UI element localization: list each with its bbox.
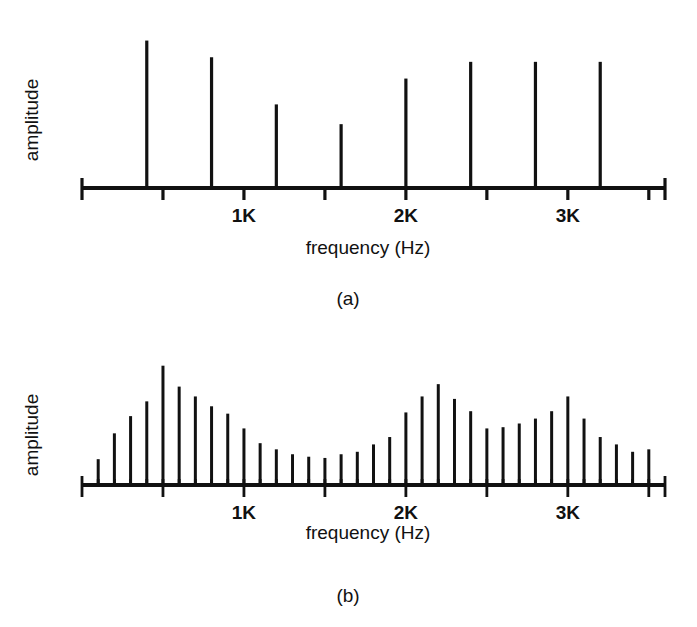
panel-b-ylabel-group: amplitude — [21, 394, 42, 476]
panel-b-caption: (b) — [336, 585, 359, 606]
panel-a-caption: (a) — [336, 288, 359, 309]
x-axis-tick-label: 1K — [232, 502, 257, 523]
x-axis-tick-label: 2K — [394, 502, 419, 523]
panel-b-x-axis-label: frequency (Hz) — [306, 522, 431, 543]
panel-b-svg: amplitude 1K2K3K frequency (Hz) (b) — [0, 330, 697, 627]
x-axis-tick-label: 1K — [232, 205, 257, 226]
panel-a-plot-area — [147, 41, 600, 188]
panel-b-axis — [82, 476, 665, 497]
panel-a-svg: amplitude 1K2K3K frequency (Hz) (a) — [0, 0, 697, 320]
panel-b-y-axis-label: amplitude — [21, 394, 42, 476]
x-axis-tick-label: 3K — [556, 502, 581, 523]
x-axis-tick-label: 2K — [394, 205, 419, 226]
panel-a-y-axis-label: amplitude — [21, 79, 42, 161]
panel-a-axis — [82, 178, 665, 200]
panel-b-tick-labels: 1K2K3K — [232, 502, 580, 523]
panel-a-tick-labels: 1K2K3K — [232, 205, 580, 226]
chart-panel-a: amplitude 1K2K3K frequency (Hz) (a) — [0, 0, 697, 320]
panel-b-plot-area — [98, 366, 649, 485]
panel-a-x-axis-label: frequency (Hz) — [306, 237, 431, 258]
chart-panel-b: amplitude 1K2K3K frequency (Hz) (b) — [0, 330, 697, 627]
panel-a-ylabel-group: amplitude — [21, 79, 42, 161]
figure-page: amplitude 1K2K3K frequency (Hz) (a) ampl… — [0, 0, 697, 627]
x-axis-tick-label: 3K — [556, 205, 581, 226]
